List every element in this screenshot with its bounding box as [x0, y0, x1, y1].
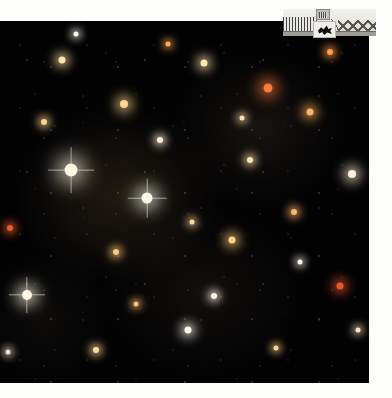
star-field-plate [0, 21, 369, 383]
badge-description: Small light panel containing a dark silh… [0, 0, 1, 1]
vignette-layer [0, 21, 369, 383]
inset-description: Grayscale photograph of a trussed arcade… [0, 0, 1, 1]
figure-silhouette-icon [318, 25, 332, 35]
figure-badge [313, 21, 336, 38]
plate-description: Dense star field photograph [0, 0, 1, 1]
page-canvas: Dense star field photograph Grayscale ph… [0, 0, 392, 398]
inset-tower-slats [319, 12, 327, 18]
inset-tower [316, 9, 330, 20]
